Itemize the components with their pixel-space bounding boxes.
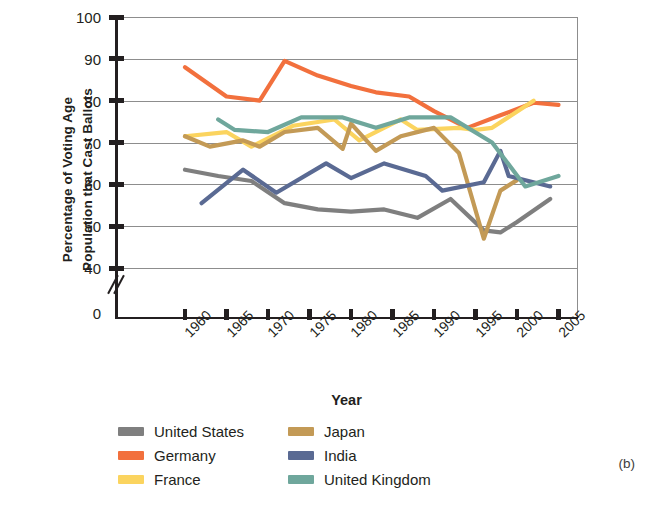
plot-area	[115, 17, 578, 319]
y-axis-tick-label: 100	[76, 9, 101, 26]
legend-label: United States	[154, 423, 244, 440]
y-axis-tick-label: 50	[84, 218, 101, 235]
data-series-layer	[115, 17, 578, 319]
legend-swatch	[118, 451, 144, 460]
panel-label: (b)	[619, 456, 636, 471]
y-axis-tick-label: 40	[84, 260, 101, 277]
legend-item-france: France	[118, 471, 288, 488]
y-axis-break-icon	[107, 272, 127, 298]
chart-legend: United StatesJapanGermanyIndiaFranceUnit…	[118, 419, 478, 491]
series-line-germany	[185, 61, 559, 128]
legend-swatch	[118, 427, 144, 436]
series-line-japan	[185, 124, 517, 239]
legend-label: Japan	[324, 423, 365, 440]
y-axis-tick-label: 90	[84, 50, 101, 67]
legend-label: United Kingdom	[324, 471, 431, 488]
legend-label: India	[324, 447, 357, 464]
legend-item-japan: Japan	[288, 423, 478, 440]
y-axis-tick-label: 60	[84, 176, 101, 193]
legend-swatch	[118, 475, 144, 484]
legend-swatch	[288, 451, 314, 460]
y-axis-tick-label: 80	[84, 92, 101, 109]
legend-item-germany: Germany	[118, 447, 288, 464]
legend-item-india: India	[288, 447, 478, 464]
y-axis-tick-label: 70	[84, 134, 101, 151]
y-axis-tick-label-zero: 0	[93, 305, 101, 322]
legend-swatch	[288, 475, 314, 484]
x-axis-title: Year	[115, 392, 578, 408]
legend-swatch	[288, 427, 314, 436]
legend-label: Germany	[154, 447, 216, 464]
legend-item-united-kingdom: United Kingdom	[288, 471, 478, 488]
legend-item-united-states: United States	[118, 423, 288, 440]
legend-label: France	[154, 471, 201, 488]
